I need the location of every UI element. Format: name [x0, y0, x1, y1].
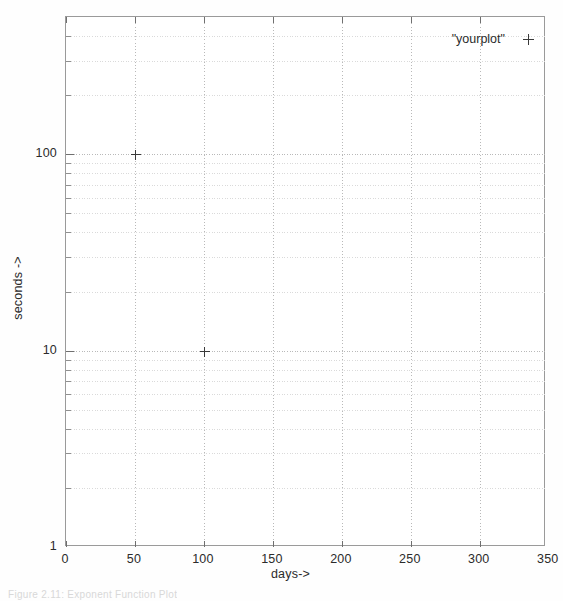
y-axis-tick-label: 1	[50, 539, 57, 553]
plot-frame: "yourplot"	[65, 16, 545, 546]
x-axis-tick-label: 250	[399, 552, 420, 566]
data-point	[200, 347, 210, 357]
x-axis-tick-label: 350	[537, 552, 558, 566]
x-axis-tick-label: 0	[61, 552, 68, 566]
x-axis-tick-label: 100	[192, 552, 213, 566]
figure-caption: Figure 2.11: Exponent Function Plot	[8, 589, 177, 601]
legend: "yourplot"	[452, 32, 534, 46]
x-axis-tick-label: 200	[330, 552, 351, 566]
scanned-page: "yourplot" 110100 050100150200250300350 …	[0, 0, 563, 601]
y-axis-tick-label: 100	[36, 146, 57, 160]
x-axis-title: days->	[0, 567, 563, 581]
data-point	[131, 150, 141, 160]
legend-entry-label: "yourplot"	[452, 32, 505, 46]
plus-marker-icon	[523, 34, 534, 45]
y-axis-title: seconds ->	[11, 228, 25, 348]
x-axis-tick-label: 50	[127, 552, 141, 566]
x-axis-title-text: days->	[271, 567, 310, 581]
y-axis-tick-label: 10	[43, 343, 57, 357]
data-layer	[66, 17, 546, 547]
figure-container: "yourplot" 110100 050100150200250300350 …	[0, 0, 563, 601]
x-axis-tick-label: 300	[468, 552, 489, 566]
x-axis-tick-label: 150	[261, 552, 282, 566]
